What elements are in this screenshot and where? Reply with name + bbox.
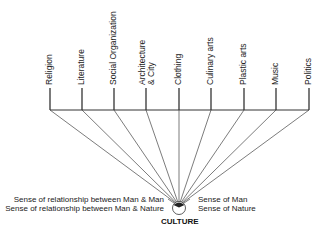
category-music: Music — [271, 63, 280, 85]
label-sense-of-nature: Sense of Nature — [198, 204, 256, 213]
label-man-nature: Sense of relationship between Man & Natu… — [5, 204, 164, 213]
category-clothing: Clothing — [174, 54, 183, 85]
category-culinary-arts: Culinary arts — [206, 37, 215, 85]
culture-title: CULTURE — [161, 217, 199, 226]
label-sense-of-man: Sense of Man — [198, 195, 256, 204]
category-literature: Literature — [77, 49, 86, 85]
category-social-organization: Social Organization — [109, 11, 118, 85]
left-labels: Sense of relationship between Man & Man … — [5, 195, 164, 213]
vertical-stubs — [50, 88, 309, 110]
right-labels: Sense of Man Sense of Nature — [198, 195, 256, 213]
category-politics: Politics — [304, 58, 313, 85]
converging-lines — [50, 110, 309, 205]
category-architecture-city: Architecture & City — [138, 40, 156, 85]
label-man-man: Sense of relationship between Man & Man — [5, 195, 164, 204]
category-plastic-arts: Plastic arts — [239, 43, 248, 85]
category-religion: Religion — [45, 54, 54, 85]
